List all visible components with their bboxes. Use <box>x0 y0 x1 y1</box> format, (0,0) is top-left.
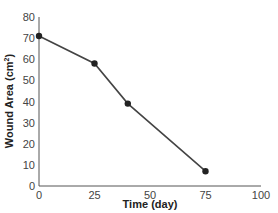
x-axis-label: Time (day) <box>123 198 178 210</box>
y-tick-label: 60 <box>23 53 35 65</box>
y-tick-label: 80 <box>23 11 35 23</box>
x-tick-label: 25 <box>88 189 100 201</box>
y-tick-label: 20 <box>23 138 35 150</box>
y-tick-label: 30 <box>23 117 35 129</box>
x-tick-label: 75 <box>199 189 211 201</box>
data-point <box>125 100 131 106</box>
y-tick-label: 70 <box>23 32 35 44</box>
x-tick-label: 100 <box>252 189 270 201</box>
data-point <box>36 33 42 39</box>
data-point <box>202 168 208 174</box>
line-chart: 01020304050607080 0255075100 Time (day) … <box>0 0 278 213</box>
series-line <box>39 36 206 171</box>
y-tick-label: 50 <box>23 74 35 86</box>
y-tick-label: 0 <box>29 180 35 192</box>
y-tick-label: 10 <box>23 159 35 171</box>
data-point <box>91 60 97 66</box>
data-markers <box>36 33 209 175</box>
y-axis-ticks: 01020304050607080 <box>23 11 35 192</box>
x-tick-label: 0 <box>36 189 42 201</box>
y-axis-label: Wound Area (cm2) <box>3 53 15 148</box>
y-tick-label: 40 <box>23 96 35 108</box>
